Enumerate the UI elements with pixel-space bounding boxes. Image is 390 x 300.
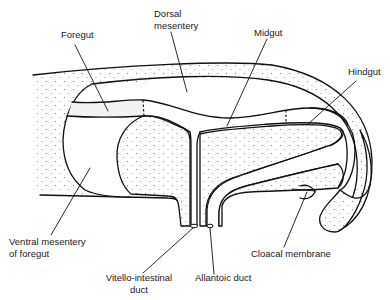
septum-transversum [117, 116, 190, 226]
leader-allantoic-duct [210, 228, 214, 274]
label-foregut: Foregut [61, 29, 94, 41]
embryo-gut-diagram [0, 0, 390, 300]
leader-dorsal-mesentery [171, 32, 187, 92]
vitello-intestinal-duct-opening [191, 224, 198, 228]
label-ventral-mesentery-line2: of foregut [9, 248, 49, 260]
leader-vitello-intestinal-duct [143, 228, 193, 273]
ventral-body-wall-line [40, 195, 182, 226]
label-ventral-mesentery-line1: Ventral mesentery [9, 236, 86, 248]
allantoic-duct-opening [207, 224, 213, 228]
leader-cloacal-membrane [284, 192, 307, 247]
label-dorsal-mesentery-line1: Dorsal [154, 8, 181, 20]
label-allantoic-duct: Allantoic duct [195, 272, 252, 284]
label-vitello-intestinal-line2: duct [100, 284, 178, 296]
label-dorsal-mesentery-line2: mesentery [154, 20, 198, 32]
label-vitello-intestinal-line1: Vitello-intestinal [100, 272, 178, 284]
label-midgut: Midgut [254, 27, 283, 39]
leader-midgut [227, 39, 267, 126]
label-cloacal-membrane: Cloacal membrane [251, 248, 331, 260]
label-hindgut: Hindgut [348, 66, 381, 78]
